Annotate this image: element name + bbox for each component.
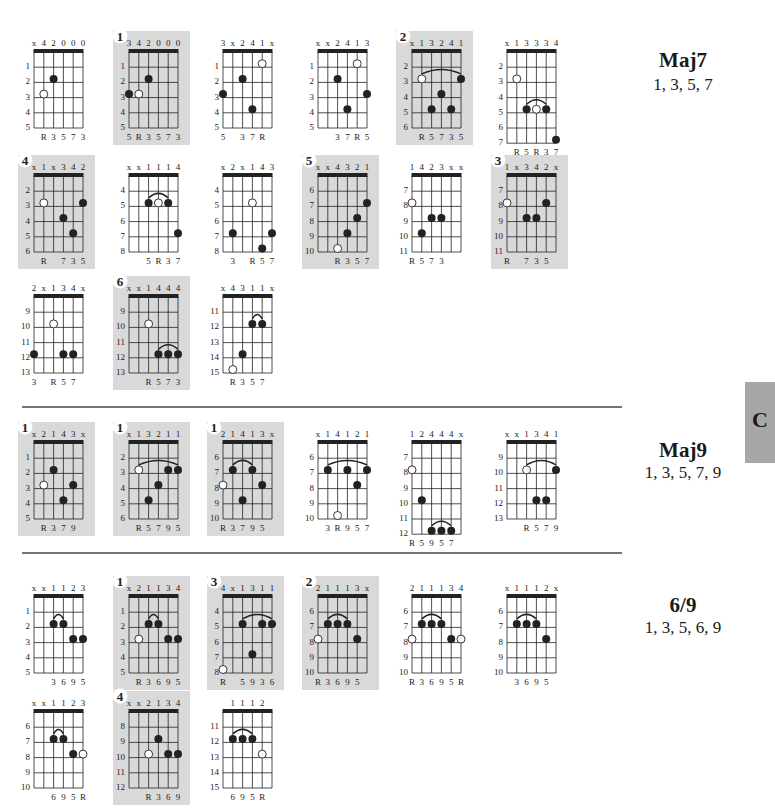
interval-label: 9 [250, 677, 255, 687]
interval-label: 3 [326, 523, 331, 533]
root-note-open-dot-icon [258, 750, 266, 758]
interval-label: 7 [449, 538, 454, 548]
nut-bar [318, 173, 368, 177]
fret-number: 5 [121, 200, 126, 210]
interval-label: 7 [71, 377, 76, 387]
interval-label: 9 [554, 523, 559, 533]
nut-bar [223, 594, 273, 598]
fret-number: 6 [215, 216, 220, 226]
finger-label: 1 [365, 162, 370, 172]
finger-dot-icon [523, 105, 531, 113]
interval-label: 3 [231, 523, 236, 533]
finger-label: x [270, 38, 275, 48]
finger-dot-icon [30, 350, 38, 358]
finger-dot-icon [343, 620, 351, 628]
interval-label: R [51, 377, 57, 387]
finger-dot-icon [428, 527, 436, 535]
finger-label: 2 [137, 583, 142, 593]
finger-label: x [505, 429, 510, 439]
interval-label: R [136, 132, 142, 142]
finger-dot-icon [268, 620, 276, 628]
finger-label: 4 [250, 38, 255, 48]
interval-label: 3 [345, 256, 350, 266]
finger-label: 1 [429, 583, 434, 593]
interval-label: 6 [166, 792, 171, 802]
finger-dot-icon [125, 90, 133, 98]
fret-number: 11 [399, 513, 408, 523]
finger-label: x [449, 162, 454, 172]
finger-label: x [365, 583, 370, 593]
interval-label: 5 [449, 677, 454, 687]
finger-label: x [221, 162, 226, 172]
finger-label: 3 [270, 162, 275, 172]
finger-label: 4 [71, 283, 76, 293]
finger-dot-icon [164, 466, 172, 474]
finger-dot-icon [229, 229, 237, 237]
finger-dot-icon [447, 105, 455, 113]
finger-label: 2 [221, 429, 226, 439]
interval-label: 3 [515, 677, 520, 687]
fret-number: 14 [210, 352, 220, 362]
fret-number: 6 [310, 606, 315, 616]
fret-number: 6 [310, 185, 315, 195]
finger-label: 1 [42, 162, 47, 172]
finger-label: x [270, 283, 275, 293]
fret-number: 5 [121, 122, 126, 132]
finger-dot-icon [145, 75, 153, 83]
finger-dot-icon [229, 735, 237, 743]
finger-label: 4 [137, 38, 142, 48]
root-note-open-dot-icon [314, 635, 322, 643]
interval-label: 6 [231, 792, 236, 802]
finger-dot-icon [59, 620, 67, 628]
fret-number: 10 [494, 231, 504, 241]
interval-label: 5 [71, 792, 76, 802]
fret-number: 7 [404, 185, 409, 195]
interval-label: 3 [32, 377, 37, 387]
fret-number: 11 [210, 306, 219, 316]
finger-label: x [316, 429, 321, 439]
finger-label: 4 [439, 429, 444, 439]
finger-label: x [231, 583, 236, 593]
interval-label: 3 [176, 132, 181, 142]
finger-label: 2 [32, 283, 37, 293]
root-note-open-dot-icon [40, 90, 48, 98]
fret-number: 7 [499, 137, 504, 147]
chord-number-badge: 2 [400, 29, 407, 44]
interval-label: 7 [544, 523, 549, 533]
finger-dot-icon [154, 735, 162, 743]
finger-dot-icon [59, 496, 67, 504]
fret-number: 5 [215, 200, 220, 210]
finger-label: 2 [51, 38, 56, 48]
finger-label: 1 [146, 583, 151, 593]
finger-dot-icon [69, 350, 77, 358]
fret-number: 7 [499, 185, 504, 195]
interval-label: 7 [345, 132, 350, 142]
fret-number: 6 [310, 452, 315, 462]
finger-label: 1 [250, 283, 255, 293]
nut-bar [318, 49, 368, 53]
chord-diagram: 78910111423xxR573 [399, 162, 464, 266]
finger-label: 4 [534, 162, 539, 172]
root-note-open-dot-icon [135, 90, 143, 98]
finger-dot-icon [552, 466, 560, 474]
fret-number: 8 [310, 483, 315, 493]
finger-label: 2 [240, 38, 245, 48]
root-note-open-dot-icon [40, 481, 48, 489]
interval-label: 7 [176, 256, 181, 266]
interval-label: 3 [166, 256, 171, 266]
finger-label: x [127, 283, 132, 293]
interval-label: 5 [240, 677, 245, 687]
fret-number: 2 [26, 76, 31, 86]
chord-diagram: 78910111212444xR5957 [399, 429, 464, 548]
interval-label: 5 [544, 256, 549, 266]
root-note-open-dot-icon [513, 75, 521, 83]
nut-bar [318, 440, 368, 444]
nut-bar [129, 173, 179, 177]
fret-number: 11 [494, 483, 503, 493]
finger-label: 2 [81, 162, 86, 172]
fret-number: 5 [215, 621, 220, 631]
fret-number: 10 [399, 498, 409, 508]
finger-label: 2 [146, 698, 151, 708]
finger-dot-icon [164, 199, 172, 207]
fret-number: 8 [26, 752, 31, 762]
